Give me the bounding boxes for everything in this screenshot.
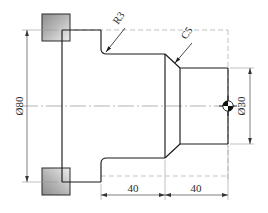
center-mark-quadrant-1 [223,101,228,106]
shoulder-taper-bottom [165,144,180,158]
callout-label-r3: R3 [111,10,127,26]
shoulder-taper-top [165,54,180,68]
callout-chamfer-c5: C5 [175,25,195,63]
center-mark-quadrant-2 [228,106,233,111]
callout-fillet-r3: R3 [106,10,127,52]
fillet-radius-bottom [101,158,107,163]
dim-label-length-first: 40 [128,182,140,194]
flange-block-top [42,14,70,41]
technical-drawing-canvas: Ø80 Ø30 40 40 R3 C5 [0,0,268,213]
dim-label-diameter-80: Ø80 [13,96,25,115]
part-drawing-svg: Ø80 Ø30 40 40 R3 C5 [0,0,268,213]
leader-line-r3 [106,28,125,52]
dim-label-length-second: 40 [191,182,203,194]
callout-label-c5: C5 [179,25,195,41]
leader-line-c5 [175,43,192,63]
flange-blocks [42,14,70,195]
dim-label-diameter-30: Ø30 [235,96,247,115]
